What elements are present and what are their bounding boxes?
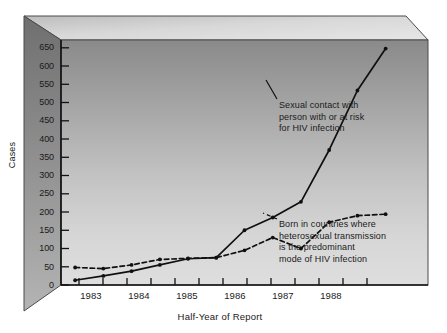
data-point (243, 228, 247, 232)
annotation-line: is the predominant (279, 242, 429, 254)
data-point (384, 212, 388, 216)
annotation-sexual-contact: Sexual contact with person with or at ri… (279, 100, 399, 135)
y-tick-label: 400 (28, 134, 54, 144)
annotation-line: for HIV infection (279, 123, 399, 135)
x-tick-label: 1986 (215, 290, 255, 301)
annotation-line: person with or at risk (279, 112, 399, 124)
x-tick-label: 1985 (167, 290, 207, 301)
data-point (101, 267, 105, 271)
chart-canvas (0, 0, 447, 333)
y-tick-label: 300 (28, 170, 54, 180)
x-axis-title: Half-Year of Report (120, 311, 320, 322)
annotation-born-in-countries: Born in countries where heterosexual tra… (279, 219, 429, 265)
data-point (384, 47, 388, 51)
data-point (243, 248, 247, 252)
x-tick-label: 1987 (263, 290, 303, 301)
annotation-line: Born in countries where (279, 219, 429, 231)
y-tick-label: 350 (28, 152, 54, 162)
data-point (73, 278, 77, 282)
y-tick-label: 500 (28, 97, 54, 107)
data-point (130, 263, 134, 267)
annotation-line: Sexual contact with (279, 100, 399, 112)
data-point (158, 258, 162, 262)
y-tick-label: 600 (28, 61, 54, 71)
x-tick-label: 1988 (311, 290, 351, 301)
box-top-panel (24, 16, 428, 40)
y-tick-label: 100 (28, 243, 54, 253)
data-point (186, 256, 190, 260)
x-tick-label: 1984 (119, 290, 159, 301)
data-point (101, 274, 105, 278)
y-tick-label: 200 (28, 207, 54, 217)
y-axis-title: Cases (7, 125, 17, 185)
annotation-line: mode of HIV infection (279, 254, 429, 266)
annotation-line: heterosexual transmission (279, 231, 429, 243)
data-point (356, 214, 360, 218)
data-point (130, 269, 134, 273)
data-point (299, 200, 303, 204)
data-point (327, 148, 331, 152)
data-point (73, 266, 77, 270)
x-tick-label: 1983 (71, 290, 111, 301)
data-point (356, 89, 360, 93)
y-tick-label: 450 (28, 115, 54, 125)
data-point (271, 236, 275, 240)
y-tick-label: 150 (28, 225, 54, 235)
chart-figure: Cases Half-Year of Report 0 50 100 150 2… (0, 0, 447, 333)
y-tick-label: 650 (28, 42, 54, 52)
y-tick-label: 0 (28, 280, 54, 290)
y-tick-label: 250 (28, 188, 54, 198)
y-tick-label: 50 (28, 262, 54, 272)
data-point (214, 256, 218, 260)
data-point (158, 263, 162, 267)
y-tick-label: 550 (28, 79, 54, 89)
